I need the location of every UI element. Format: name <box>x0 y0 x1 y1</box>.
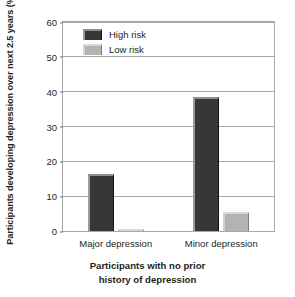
x-tick-label-major-depression: Major depression <box>79 238 152 249</box>
legend-label-low-risk: Low risk <box>109 44 144 55</box>
x-axis-title-line-1: Participants with no prior <box>0 259 295 273</box>
y-tick-label-60: 60 <box>46 17 63 28</box>
bar-chart-figure: Participants developing depression over … <box>0 0 295 297</box>
plot-area: 0102030405060 Major depressionMinor depr… <box>62 21 275 232</box>
y-tick-label-10: 10 <box>46 191 63 202</box>
legend: High riskLow risk <box>83 28 146 55</box>
gridline-30 <box>63 126 274 127</box>
x-axis-title: Participants with no prior history of de… <box>0 259 295 286</box>
y-tick-label-20: 20 <box>46 156 63 167</box>
y-tick-label-40: 40 <box>46 86 63 97</box>
y-axis-title-text: Participants developing depression over … <box>5 0 15 244</box>
legend-swatch-icon-low-risk <box>83 44 102 55</box>
x-axis-title-line-2: history of depression <box>0 273 295 287</box>
bar-minor-depression-low-risk <box>223 212 249 231</box>
gridline-50 <box>63 56 274 57</box>
bar-major-depression-high-risk <box>88 174 114 231</box>
y-tick-label-50: 50 <box>46 51 63 62</box>
bar-minor-depression-high-risk <box>193 97 219 231</box>
legend-label-high-risk: High risk <box>109 29 146 40</box>
y-tick-label-30: 30 <box>46 121 63 132</box>
bar-major-depression-low-risk <box>118 229 144 231</box>
gridline-60 <box>63 22 274 23</box>
y-tick-label-0: 0 <box>52 226 63 237</box>
legend-item-high-risk: High risk <box>83 28 146 40</box>
x-tick-label-minor-depression: Minor depression <box>185 238 258 249</box>
legend-swatch-icon-high-risk <box>83 29 102 40</box>
y-axis-title: Participants developing depression over … <box>0 0 20 237</box>
gridline-40 <box>63 91 274 92</box>
gridline-20 <box>63 161 274 162</box>
legend-item-low-risk: Low risk <box>83 43 146 55</box>
